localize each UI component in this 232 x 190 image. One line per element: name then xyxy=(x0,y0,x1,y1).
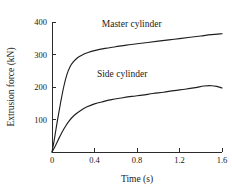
x-tick-label-1-6: 1.6 xyxy=(217,155,228,165)
x-axis-title: Time (s) xyxy=(121,174,153,185)
y-tick-label-300: 300 xyxy=(34,50,47,60)
extrusion-force-chart: 400 300 200 100 0 0.4 0.8 1.2 1.6 Time (… xyxy=(0,0,232,190)
x-tick-label-0: 0 xyxy=(50,155,54,165)
x-tick-label-0-4: 0.4 xyxy=(89,155,100,165)
plot-area: 400 300 200 100 0 0.4 0.8 1.2 1.6 Time (… xyxy=(0,0,232,190)
series-line-side-cylinder xyxy=(52,86,222,152)
y-tick-label-400: 400 xyxy=(34,17,47,27)
y-axis-title: Extrusion force (kN) xyxy=(6,47,17,126)
series-line-master-cylinder xyxy=(52,34,222,152)
y-tick-label-100: 100 xyxy=(34,115,47,125)
series-label-master-cylinder: Master cylinder xyxy=(102,19,163,29)
x-tick-label-1-2: 1.2 xyxy=(174,155,185,165)
y-tick-label-200: 200 xyxy=(34,82,47,92)
series-label-side-cylinder: Side cylinder xyxy=(97,69,148,79)
x-tick-label-0-8: 0.8 xyxy=(132,155,143,165)
